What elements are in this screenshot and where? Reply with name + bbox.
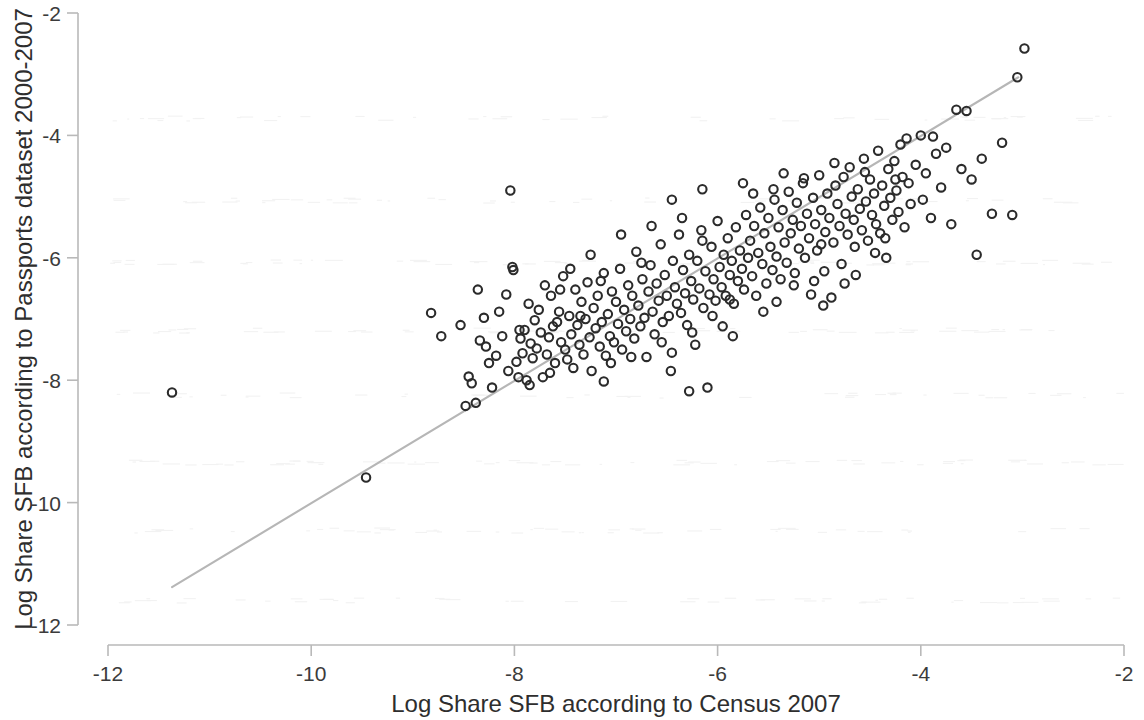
- scan-speckle: [427, 198, 435, 199]
- scan-speckle: [361, 332, 373, 333]
- scan-speckle: [415, 532, 427, 533]
- scan-speckle: [760, 599, 775, 600]
- scan-speckle: [549, 201, 555, 202]
- scan-speckle: [318, 464, 323, 465]
- scan-speckle: [520, 396, 537, 397]
- scan-speckle: [280, 393, 296, 394]
- scan-speckle: [397, 261, 404, 262]
- scan-speckle: [1043, 198, 1053, 199]
- scan-speckle: [608, 532, 614, 533]
- x-tick-label: -6: [708, 662, 727, 685]
- scan-speckle: [289, 461, 300, 462]
- scan-speckle: [893, 393, 902, 394]
- scan-speckle: [622, 331, 636, 332]
- scan-speckle: [782, 120, 799, 121]
- x-tick-label: -10: [296, 662, 326, 685]
- scan-speckle: [163, 463, 180, 464]
- scan-speckle: [902, 330, 918, 331]
- scan-speckle: [951, 602, 953, 603]
- scan-speckle: [1092, 464, 1105, 465]
- scan-speckle: [908, 532, 911, 533]
- scan-speckle: [906, 261, 910, 262]
- scan-speckle: [315, 331, 332, 332]
- scan-speckle: [175, 397, 182, 398]
- plot-canvas: -2-4-6-8-10-12 -12-10-8-6-4-2 Log Share …: [0, 0, 1144, 720]
- scan-speckle: [1054, 202, 1061, 203]
- scan-speckle: [133, 393, 150, 394]
- scan-speckle: [839, 332, 857, 333]
- scan-speckle: [830, 199, 835, 200]
- scan-speckle: [660, 398, 664, 399]
- scan-speckle: [873, 264, 885, 265]
- scan-speckle: [979, 395, 985, 396]
- y-tick-label: -4: [42, 124, 61, 147]
- scan-speckle: [374, 528, 390, 529]
- scan-speckle: [355, 395, 367, 396]
- scan-speckle: [989, 331, 1006, 332]
- scan-speckle: [610, 200, 612, 201]
- scan-speckle: [231, 198, 237, 199]
- scan-speckle: [115, 332, 124, 333]
- scan-speckle: [150, 461, 160, 462]
- scan-speckle: [1043, 264, 1045, 265]
- scan-speckle: [804, 600, 817, 601]
- scan-speckle: [991, 329, 999, 330]
- scan-speckle: [962, 117, 968, 118]
- scan-speckle: [901, 530, 908, 531]
- scan-speckle: [285, 464, 295, 465]
- scan-speckle: [966, 200, 969, 201]
- scan-speckle: [134, 532, 137, 533]
- scan-speckle: [413, 117, 416, 118]
- scan-speckle: [770, 529, 780, 530]
- scan-speckle: [511, 533, 523, 534]
- scan-speckle: [836, 529, 846, 530]
- scan-speckle: [786, 529, 799, 530]
- scan-speckle: [308, 202, 320, 203]
- scan-speckle: [1083, 397, 1086, 398]
- scan-speckle: [236, 201, 240, 202]
- scan-speckle: [511, 601, 524, 602]
- scan-speckle: [240, 117, 253, 118]
- scan-speckle: [1108, 464, 1124, 465]
- scan-speckle: [327, 199, 333, 200]
- scan-speckle: [237, 117, 242, 118]
- scan-speckle: [1108, 116, 1112, 117]
- scan-speckle: [872, 263, 889, 264]
- scan-speckle: [168, 116, 183, 117]
- scan-speckle: [274, 331, 285, 332]
- scan-speckle: [435, 264, 452, 265]
- x-tick-label: -4: [911, 662, 930, 685]
- scan-speckle: [755, 201, 766, 202]
- scan-speckle: [873, 602, 880, 603]
- scan-speckle: [943, 461, 955, 462]
- scan-speckle: [193, 261, 203, 262]
- scan-speckle: [677, 460, 688, 461]
- scan-speckle: [435, 598, 445, 599]
- scan-speckle: [425, 462, 439, 463]
- scan-speckle: [311, 260, 313, 261]
- scan-speckle: [710, 529, 722, 530]
- scan-speckle: [158, 120, 164, 121]
- scan-speckle: [542, 119, 549, 120]
- scan-speckle: [700, 120, 708, 121]
- scan-speckle: [624, 263, 637, 264]
- scan-speckle: [1062, 462, 1069, 463]
- scan-speckle: [996, 263, 1006, 264]
- scan-speckle: [734, 464, 737, 465]
- scan-speckle: [559, 330, 563, 331]
- scan-speckle: [378, 120, 393, 121]
- scan-speckle: [954, 393, 969, 394]
- scan-speckle: [985, 397, 993, 398]
- scan-speckle: [344, 530, 355, 531]
- scan-speckle: [827, 331, 835, 332]
- scan-speckle: [630, 528, 634, 529]
- scan-speckle: [158, 331, 171, 332]
- scan-speckle: [939, 331, 956, 332]
- scan-speckle: [1020, 598, 1025, 599]
- scan-speckle: [900, 461, 903, 462]
- y-axis-title: Log Share SFB according to Passports dat…: [10, 8, 37, 630]
- scan-speckle: [117, 394, 121, 395]
- scan-speckle: [800, 331, 807, 332]
- scan-speckle: [834, 118, 844, 119]
- scan-speckle: [414, 462, 416, 463]
